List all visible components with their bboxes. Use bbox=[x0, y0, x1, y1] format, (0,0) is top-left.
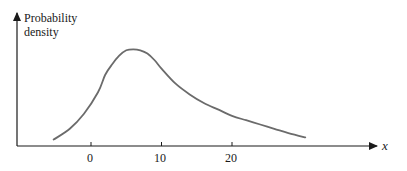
density-curve bbox=[54, 49, 306, 139]
x-axis-label: x bbox=[382, 139, 388, 153]
x-tick-label-20: 20 bbox=[225, 151, 237, 165]
x-tick-label-10: 10 bbox=[154, 151, 166, 165]
y-axis-label-line-1: Probability bbox=[24, 11, 77, 25]
x-tick-label-0: 0 bbox=[87, 151, 93, 165]
y-axis-label-line-2: density bbox=[24, 25, 77, 39]
y-axis-label: Probability density bbox=[24, 11, 77, 39]
